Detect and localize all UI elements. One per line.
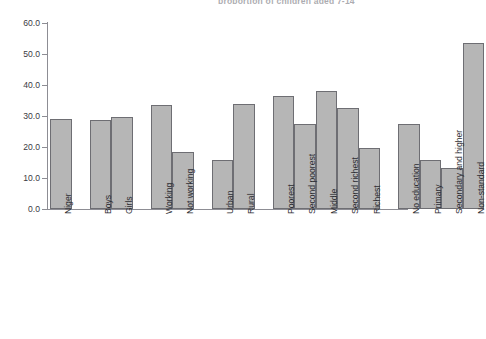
x-axis-category-label: Poorest [287,184,296,214]
x-axis-category-label: Secondary and higher [455,130,464,214]
chart-title-fragment: proportion of children aged 7-14 [218,0,408,4]
x-axis-category-label: Rural [247,193,256,214]
x-axis-category-label: Urban [226,191,235,214]
x-axis-category-label: Richest [373,185,382,214]
y-axis-tick-label: 20.0 [6,143,40,152]
x-axis-category-label: Niger [64,193,73,214]
y-axis-tick-label: 50.0 [6,50,40,59]
x-axis-category-label: Second richest [351,157,360,214]
x-axis-category-label: Middle [330,189,339,214]
bar [111,117,133,209]
x-axis-category-label: Second poorest [308,154,317,214]
x-axis-category-label: Non-standard [477,162,486,214]
x-axis-category-label: Boys [104,195,113,214]
x-axis-category-label: Primary [434,184,443,214]
x-axis-category-label: Working [165,183,174,214]
y-axis-tick-label: 40.0 [6,81,40,90]
y-axis-tick-label: 60.0 [6,19,40,28]
y-axis-tick-label: 0.0 [6,205,40,214]
y-axis-tick-labels: 0.010.020.030.040.050.060.0 [0,0,40,339]
y-axis-tick-label: 30.0 [6,112,40,121]
y-axis-tick-label: 10.0 [6,174,40,183]
x-axis-category-label: Girls [125,196,134,214]
x-axis-category-label: Not working [186,169,195,214]
x-axis-category-label: No education [412,163,421,214]
